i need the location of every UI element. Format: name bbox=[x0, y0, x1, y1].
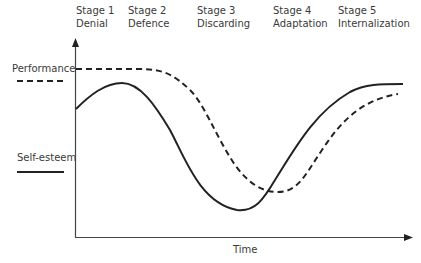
performance-curve bbox=[76, 69, 398, 192]
chart-canvas bbox=[0, 0, 421, 263]
self-esteem-curve bbox=[76, 83, 403, 210]
x-axis-arrow-icon bbox=[404, 234, 413, 241]
y-axis-arrow-icon bbox=[72, 38, 79, 47]
